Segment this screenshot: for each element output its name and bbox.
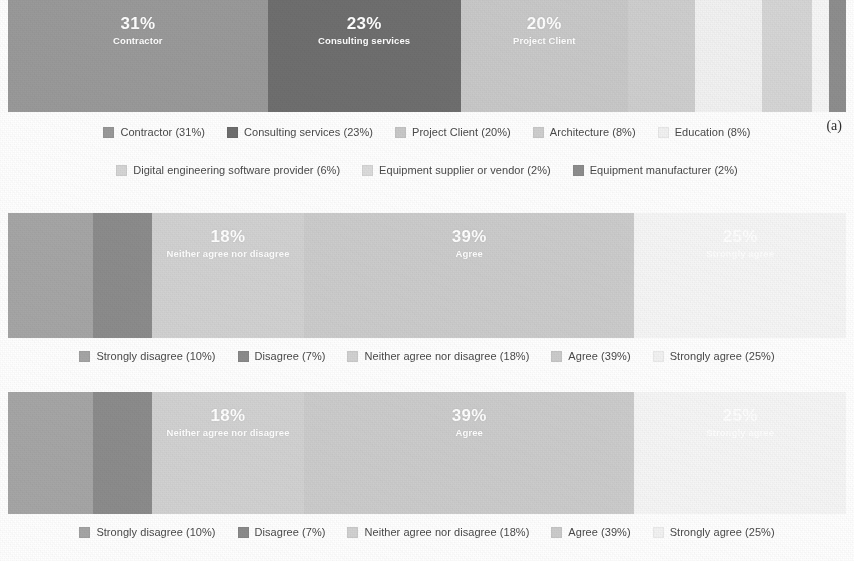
legend-row: Strongly disagree (10%)Disagree (7%)Neit… bbox=[0, 350, 854, 362]
stacked-bar-wrapper-a: 31%Contractor23%Consulting services20%Pr… bbox=[8, 0, 846, 112]
legend-item-label: Education (8%) bbox=[675, 126, 751, 138]
bar-segment-label: Agree bbox=[456, 248, 483, 259]
bar-segment: 6%Digital engineering software provider bbox=[762, 0, 812, 112]
bar-segment: 20%Project Client bbox=[461, 0, 629, 112]
legend-swatch-icon bbox=[395, 127, 406, 138]
legend-item[interactable]: Education (8%) bbox=[658, 126, 751, 138]
bar-segment-percent: 25% bbox=[723, 227, 758, 247]
bar-segment-label: Neither agree nor disagree bbox=[167, 427, 290, 438]
legend-swatch-icon bbox=[103, 127, 114, 138]
legend-swatch-icon bbox=[362, 165, 373, 176]
bar-segment-label: Strongly agree bbox=[706, 427, 774, 438]
panel-letter-a: (a) bbox=[826, 118, 842, 134]
legend-item-label: Agree (39%) bbox=[568, 350, 630, 362]
bar-segment: 2%Equipment supplier or vendor bbox=[812, 0, 829, 112]
legend-item-label: Equipment supplier or vendor (2%) bbox=[379, 164, 551, 176]
legend-item-label: Disagree (7%) bbox=[255, 350, 326, 362]
bar-segment-label: Agree bbox=[456, 427, 483, 438]
legend-item-label: Contractor (31%) bbox=[120, 126, 205, 138]
figure-panel-b: 10%Strongly disagree7%Disagree18%Neither… bbox=[0, 213, 854, 362]
legend-item[interactable]: Neither agree nor disagree (18%) bbox=[347, 526, 529, 538]
bar-segment-label: Consulting services bbox=[318, 35, 410, 46]
bar-segment-percent: 23% bbox=[347, 14, 382, 34]
bar-segment: 8%Education bbox=[695, 0, 762, 112]
legend-item[interactable]: Project Client (20%) bbox=[395, 126, 511, 138]
legend-swatch-icon bbox=[551, 527, 562, 538]
bar-segment-percent: 18% bbox=[211, 406, 246, 426]
legend-item[interactable]: Disagree (7%) bbox=[238, 526, 326, 538]
legend-item-label: Strongly disagree (10%) bbox=[96, 350, 215, 362]
legend-row: Contractor (31%)Consulting services (23%… bbox=[0, 126, 854, 138]
legend-item[interactable]: Disagree (7%) bbox=[238, 350, 326, 362]
figure-panel-a: 31%Contractor23%Consulting services20%Pr… bbox=[0, 0, 854, 176]
legend-item-label: Strongly agree (25%) bbox=[670, 350, 775, 362]
legend-swatch-icon bbox=[533, 127, 544, 138]
legend-item-label: Neither agree nor disagree (18%) bbox=[364, 350, 529, 362]
bar-segment: 8%Architecture bbox=[628, 0, 695, 112]
legend-item-label: Neither agree nor disagree (18%) bbox=[364, 526, 529, 538]
bar-segment: 18%Neither agree nor disagree bbox=[152, 392, 304, 514]
legend-swatch-icon bbox=[238, 351, 249, 362]
bar-segment-percent: 39% bbox=[452, 406, 487, 426]
bar-segment: 18%Neither agree nor disagree bbox=[152, 213, 304, 338]
legend-item[interactable]: Strongly agree (25%) bbox=[653, 350, 775, 362]
stacked-bar-wrapper-b: 10%Strongly disagree7%Disagree18%Neither… bbox=[8, 213, 846, 338]
stacked-bar-b: 10%Strongly disagree7%Disagree18%Neither… bbox=[8, 213, 846, 338]
bar-segment-label: Contractor bbox=[113, 35, 163, 46]
legend-item[interactable]: Strongly agree (25%) bbox=[653, 526, 775, 538]
stacked-bar-a: 31%Contractor23%Consulting services20%Pr… bbox=[8, 0, 846, 112]
legend-item[interactable]: Contractor (31%) bbox=[103, 126, 205, 138]
legend-item[interactable]: Neither agree nor disagree (18%) bbox=[347, 350, 529, 362]
legend-item[interactable]: Digital engineering software provider (6… bbox=[116, 164, 340, 176]
bar-segment-percent: 25% bbox=[723, 406, 758, 426]
bar-segment: 10%Strongly disagree bbox=[8, 392, 93, 514]
legend-item[interactable]: Strongly disagree (10%) bbox=[79, 350, 215, 362]
legend-swatch-icon bbox=[653, 351, 664, 362]
legend-a: Contractor (31%)Consulting services (23%… bbox=[0, 126, 854, 176]
bar-segment: 10%Strongly disagree bbox=[8, 213, 93, 338]
legend-item-label: Strongly agree (25%) bbox=[670, 526, 775, 538]
legend-swatch-icon bbox=[347, 527, 358, 538]
legend-row: Digital engineering software provider (6… bbox=[0, 164, 854, 176]
bar-segment-percent: 20% bbox=[527, 14, 562, 34]
bar-segment-label: Strongly agree bbox=[706, 248, 774, 259]
legend-swatch-icon bbox=[79, 527, 90, 538]
bar-segment: 39%Agree bbox=[304, 213, 634, 338]
legend-swatch-icon bbox=[79, 351, 90, 362]
bar-segment-percent: 18% bbox=[211, 227, 246, 247]
bar-segment-percent: 39% bbox=[452, 227, 487, 247]
legend-item-label: Architecture (8%) bbox=[550, 126, 636, 138]
bar-segment: 2%Equipment manufacturer bbox=[829, 0, 846, 112]
bar-segment: 7%Disagree bbox=[93, 392, 152, 514]
legend-item[interactable]: Agree (39%) bbox=[551, 350, 630, 362]
bar-segment: 25%Strongly agree bbox=[634, 213, 846, 338]
legend-item-label: Equipment manufacturer (2%) bbox=[590, 164, 738, 176]
legend-item[interactable]: Consulting services (23%) bbox=[227, 126, 373, 138]
bar-segment: 31%Contractor bbox=[8, 0, 268, 112]
legend-item-label: Agree (39%) bbox=[568, 526, 630, 538]
legend-c: Strongly disagree (10%)Disagree (7%)Neit… bbox=[0, 526, 854, 538]
legend-swatch-icon bbox=[653, 527, 664, 538]
bar-segment: 25%Strongly agree bbox=[634, 392, 846, 514]
legend-item[interactable]: Equipment supplier or vendor (2%) bbox=[362, 164, 551, 176]
legend-row: Strongly disagree (10%)Disagree (7%)Neit… bbox=[0, 526, 854, 538]
legend-swatch-icon bbox=[227, 127, 238, 138]
legend-item[interactable]: Strongly disagree (10%) bbox=[79, 526, 215, 538]
legend-item-label: Consulting services (23%) bbox=[244, 126, 373, 138]
bar-segment: 7%Disagree bbox=[93, 213, 152, 338]
legend-b: Strongly disagree (10%)Disagree (7%)Neit… bbox=[0, 350, 854, 362]
legend-item-label: Disagree (7%) bbox=[255, 526, 326, 538]
stacked-bar-wrapper-c: 10%Strongly disagree7%Disagree18%Neither… bbox=[8, 392, 846, 514]
legend-item[interactable]: Architecture (8%) bbox=[533, 126, 636, 138]
legend-swatch-icon bbox=[658, 127, 669, 138]
legend-swatch-icon bbox=[573, 165, 584, 176]
bar-segment-label: Neither agree nor disagree bbox=[167, 248, 290, 259]
bar-segment: 23%Consulting services bbox=[268, 0, 461, 112]
bar-segment-percent: 31% bbox=[120, 14, 155, 34]
bar-segment: 39%Agree bbox=[304, 392, 634, 514]
legend-item[interactable]: Agree (39%) bbox=[551, 526, 630, 538]
legend-swatch-icon bbox=[347, 351, 358, 362]
legend-item[interactable]: Equipment manufacturer (2%) bbox=[573, 164, 738, 176]
bar-segment-label: Project Client bbox=[513, 35, 576, 46]
legend-swatch-icon bbox=[116, 165, 127, 176]
